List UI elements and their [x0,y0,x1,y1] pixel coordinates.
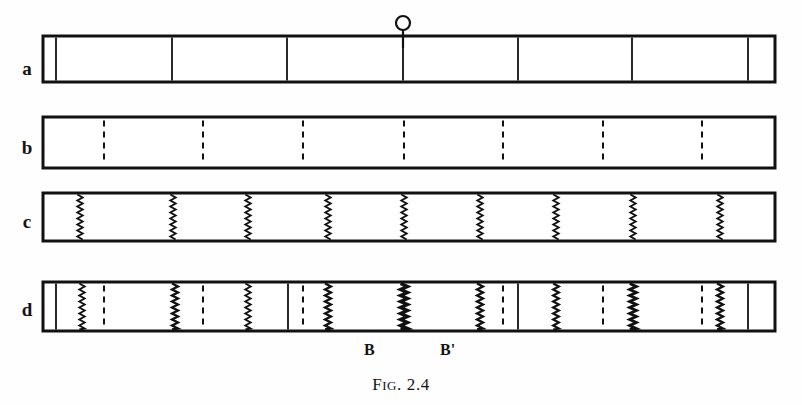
row-label-a: a [14,59,40,78]
row-label-b: b [14,138,40,157]
segment-label-b-prime: B' [440,342,455,358]
figure-svg [0,0,802,405]
bar-rows-layer [43,36,775,331]
segment-label-b: B [364,342,375,358]
bar-row-a [43,36,775,82]
caption-text: FIG. 2.4 [372,375,430,394]
bar-row-b [43,117,775,168]
row-label-c: c [14,212,40,231]
figure-container: a b c d O B B' FIG. 2.4 [0,0,802,405]
bar-row-d [43,282,775,331]
figure-caption: FIG. 2.4 [0,375,802,395]
bar-outline-c [43,193,775,241]
bar-outline-b [43,117,775,168]
bar-outline-a [43,36,775,82]
origin-circle-icon [396,16,410,30]
bar-row-c [43,193,775,241]
row-label-d: d [14,300,40,319]
